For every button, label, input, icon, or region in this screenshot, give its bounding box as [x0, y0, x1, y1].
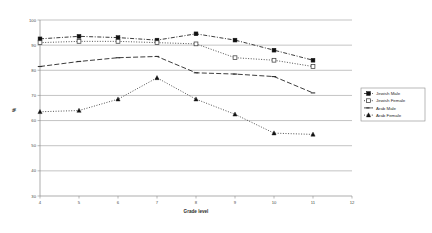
data-point — [116, 36, 120, 40]
legend-label: Arab Male — [376, 106, 397, 111]
data-point — [233, 56, 237, 60]
data-point — [38, 37, 42, 41]
data-point — [194, 97, 198, 101]
series-arab-female — [38, 76, 315, 137]
x-tick-label: 11 — [311, 200, 316, 205]
y-tick-label: 60 — [31, 118, 36, 123]
data-point — [233, 38, 237, 42]
x-tick-label: 8 — [195, 200, 198, 205]
y-tick-label: 100 — [29, 18, 37, 23]
x-tick-label: 5 — [78, 200, 81, 205]
x-tick-label: 12 — [350, 200, 355, 205]
data-point — [311, 58, 315, 62]
x-tick-label: 9 — [234, 200, 237, 205]
y-tick-label: 90 — [31, 43, 36, 48]
chart-legend: Jewish MaleJewish FemaleArab MaleArab Fe… — [361, 88, 425, 121]
data-point — [272, 58, 276, 62]
y-axis-ticks — [38, 20, 41, 196]
data-point — [38, 109, 42, 113]
y-tick-label: 70 — [31, 93, 36, 98]
y-tick-label: 50 — [31, 143, 36, 148]
y-tick-label: 30 — [31, 194, 36, 199]
x-axis-title: Grade level — [184, 209, 209, 214]
data-point — [116, 97, 120, 101]
data-point — [77, 108, 81, 112]
legend-item-jewish-female[interactable]: Jewish Female — [364, 98, 406, 103]
legend-label: Jewish Male — [376, 91, 401, 96]
x-axis-tick-labels: 456789101112 — [39, 200, 355, 205]
data-point — [77, 34, 81, 38]
x-tick-label: 4 — [39, 200, 42, 205]
y-axis-tick-labels: 30405060708090100 — [29, 18, 37, 199]
data-point — [155, 41, 159, 45]
data-point — [77, 39, 81, 43]
data-point — [116, 39, 120, 43]
y-tick-label: 80 — [31, 68, 36, 73]
series-jewish-female — [38, 39, 315, 68]
x-tick-label: 10 — [272, 200, 277, 205]
legend-marker — [367, 99, 371, 103]
data-point — [194, 32, 198, 36]
x-tick-label: 7 — [156, 200, 159, 205]
legend-item-jewish-male[interactable]: Jewish Male — [364, 91, 401, 96]
chart-container: 30405060708090100 456789101112 Grade lev… — [0, 0, 432, 233]
y-tick-label: 40 — [31, 168, 36, 173]
x-tick-label: 6 — [117, 200, 120, 205]
legend-label: Jewish Female — [376, 98, 406, 103]
legend-label: Arab Female — [376, 113, 402, 118]
data-point — [155, 76, 159, 80]
y-axis-title: % — [12, 108, 17, 112]
x-axis-ticks — [40, 196, 352, 199]
legend-marker — [367, 92, 371, 96]
data-point — [194, 42, 198, 46]
line-chart: 30405060708090100 456789101112 Grade lev… — [0, 0, 432, 233]
data-point — [272, 48, 276, 52]
series-line — [40, 78, 313, 135]
series-jewish-male — [38, 32, 315, 62]
data-point — [311, 65, 315, 69]
data-point — [38, 41, 42, 45]
